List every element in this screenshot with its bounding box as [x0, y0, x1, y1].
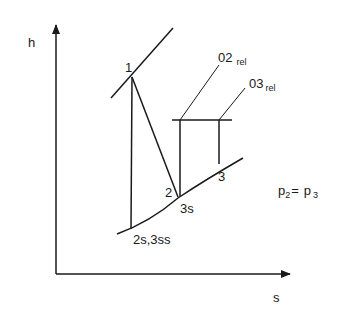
point-3s-label: 3s [180, 201, 194, 216]
s-axis-label: s [273, 290, 280, 305]
leader-02rel [180, 65, 219, 120]
point-3-label: 3 [218, 169, 225, 184]
pressure-equality-label: p2=p3 [278, 183, 318, 200]
point-2-label: 2 [165, 185, 172, 200]
isentropic-line-1-2s [131, 77, 132, 229]
h-axis-label: h [28, 35, 35, 50]
label-03rel: 03rel [249, 76, 275, 93]
isobar-p1 [111, 28, 173, 98]
label-02rel: 02rel [218, 50, 246, 67]
point-2s-3ss-label: 2s,3ss [133, 232, 171, 247]
leader-03rel [219, 88, 245, 120]
point-1-label: 1 [125, 60, 132, 75]
hs-diagram: h s 1 2 3s 3 2s,3ss 02rel 03rel p2=p3 [0, 0, 353, 318]
expansion-line-1-2 [132, 77, 178, 197]
